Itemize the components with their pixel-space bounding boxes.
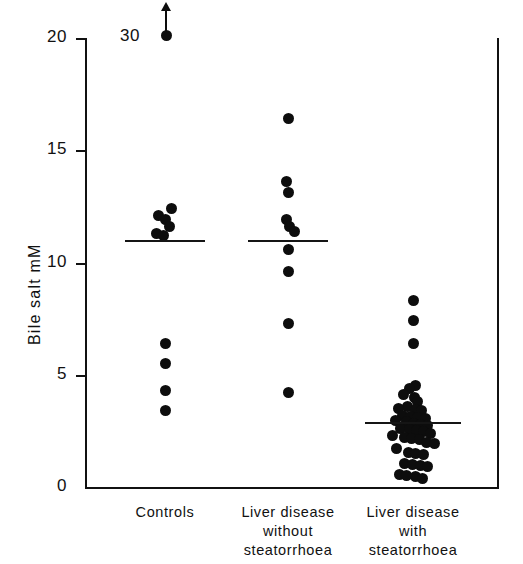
data-point (281, 176, 292, 187)
data-point (289, 226, 300, 237)
offscale-arrow-head-icon (161, 2, 171, 11)
data-point (387, 430, 398, 441)
data-point (391, 443, 402, 454)
data-point (160, 358, 171, 369)
data-point (418, 449, 429, 460)
data-point (160, 405, 171, 416)
data-point (429, 438, 440, 449)
data-point (283, 187, 294, 198)
bile-salt-dot-plot-figure: Bile salt mM 05101520 30 ControlsLiver d… (0, 0, 523, 564)
plot-area (0, 0, 523, 564)
x-axis-group-label-line: Liver disease (338, 503, 488, 522)
data-point (160, 338, 171, 349)
x-axis-group-label-3: Liver diseasewithsteatorrhoea (338, 503, 488, 560)
data-point (422, 461, 433, 472)
data-point (408, 315, 419, 326)
data-point (283, 318, 294, 329)
data-point (166, 203, 177, 214)
data-point (283, 266, 294, 277)
data-point (283, 387, 294, 398)
median-line (365, 422, 461, 424)
data-point (408, 338, 419, 349)
data-point (408, 295, 419, 306)
x-axis-group-label-line: steatorrhoea (338, 541, 488, 560)
data-point (160, 385, 171, 396)
offscale-data-point (161, 30, 172, 41)
data-point (283, 113, 294, 124)
data-point (283, 244, 294, 255)
data-point (417, 473, 428, 484)
data-point (398, 389, 409, 400)
median-line (125, 240, 205, 242)
median-line (248, 240, 328, 242)
x-axis-group-label-line: with (338, 522, 488, 541)
offscale-value-label: 30 (120, 26, 140, 46)
